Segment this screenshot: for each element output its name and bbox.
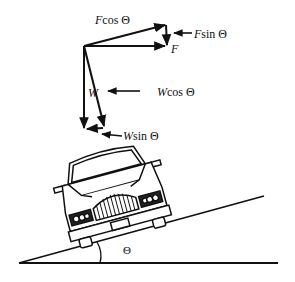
f-sin-label: Fsin Θ [194,28,227,40]
w-label: W [88,87,98,99]
w-sin-label: Wsin Θ [123,130,159,142]
f-sin-vector [166,25,167,45]
w-sin-pointer [102,134,122,136]
angle-label: Θ [123,245,131,256]
f-cos-label: Fcos Θ [95,14,130,26]
f-label: F [171,43,178,55]
force-vectors [84,25,167,129]
f-cos-vector [84,25,165,46]
w-sin-vector [87,128,103,129]
angle-arc [97,242,101,263]
w-cos-label: Wcos Θ [157,86,195,98]
car [48,138,177,251]
force-diagram: Fcos Θ Fsin Θ F W Wcos Θ Wsin Θ Θ [0,0,295,282]
